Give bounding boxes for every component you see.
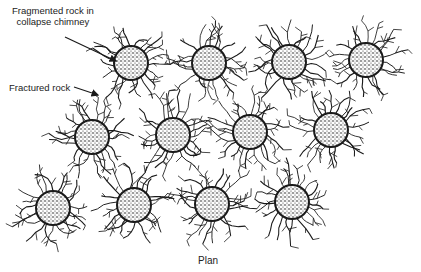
collapse-chimney (114, 46, 148, 80)
collapse-chimney (75, 120, 109, 154)
collapse-chimney (272, 45, 306, 79)
collapse-chimney (156, 118, 190, 152)
collapse-chimney (36, 191, 70, 225)
fragmented-rock-label: Fragmented rock in collapse chimney (12, 5, 94, 27)
collapse-chimney (192, 46, 226, 80)
collapse-chimney (275, 185, 309, 219)
collapse-chimney (195, 187, 229, 221)
fragmented-rock-label-line1: Fragmented rock in (12, 5, 94, 16)
collapse-chimney (314, 113, 348, 147)
fractured-rock-label: Fractured rock (9, 82, 70, 93)
collapse-chimney (349, 43, 383, 77)
collapse-chimneys (36, 43, 383, 225)
fragmented-rock-label-line2: collapse chimney (12, 16, 94, 27)
collapse-chimney (117, 188, 151, 222)
chimney-array-diagram (0, 0, 421, 272)
collapse-chimney (233, 115, 267, 149)
plan-caption: Plan (198, 255, 218, 266)
fractured-rock-arrow (74, 87, 98, 95)
